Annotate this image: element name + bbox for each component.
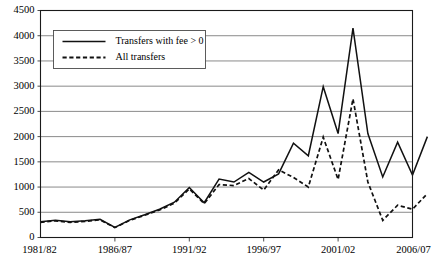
x-tick-marks-group [115, 238, 338, 242]
x-axis-tick-labels: 1981/821986/871991/921996/972001/022006/… [22, 244, 430, 255]
x-tick-label: 2006/07 [396, 244, 430, 255]
y-tick-label: 3000 [14, 80, 35, 91]
y-tick-label: 4000 [14, 30, 35, 41]
x-tick-label: 2001/02 [321, 244, 355, 255]
chart-canvas: 050010001500200025003000350040004500 198… [0, 0, 440, 269]
x-tick-label: 1986/87 [98, 244, 132, 255]
legend-label: All transfers [116, 51, 166, 62]
x-tick-label: 1981/82 [22, 244, 56, 255]
chart-legend: Transfers with fee > 0All transfers [54, 31, 206, 69]
x-tick-label: 1996/97 [246, 244, 280, 255]
y-tick-label: 500 [19, 206, 35, 217]
y-tick-label: 2000 [14, 131, 35, 142]
x-tick-label: 1991/92 [172, 244, 206, 255]
series-line-2 [41, 99, 428, 228]
y-tick-label: 0 [29, 231, 34, 242]
y-tick-label: 3500 [14, 55, 35, 66]
line-chart: 050010001500200025003000350040004500 198… [0, 0, 440, 269]
y-tick-label: 4500 [14, 4, 35, 15]
y-tick-label: 2500 [14, 105, 35, 116]
y-tick-label: 1000 [14, 181, 35, 192]
y-axis-tick-labels: 050010001500200025003000350040004500 [14, 4, 35, 242]
y-tick-label: 1500 [14, 156, 35, 167]
legend-label: Transfers with fee > 0 [116, 35, 204, 46]
